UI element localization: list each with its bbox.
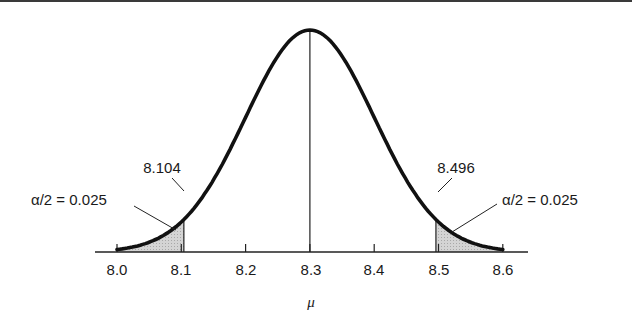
tick-label-8-6: 8.6 (493, 261, 514, 278)
tick-label-8-5: 8.5 (429, 261, 450, 278)
right-tail-leader-line (452, 204, 497, 232)
lower-bound-label: 8.104 (143, 159, 181, 176)
left-tail-leader-line (134, 206, 176, 230)
normal-curve-diagram: 8.0 8.1 8.2 8.3 8.4 8.5 8.6 μ 8.104 8.49… (0, 0, 632, 330)
tick-label-8-2: 8.2 (236, 261, 257, 278)
upper-bound-label: 8.496 (437, 159, 475, 176)
tick-label-8-0: 8.0 (107, 261, 128, 278)
tick-label-8-3: 8.3 (301, 261, 322, 278)
figure-frame: 8.0 8.1 8.2 8.3 8.4 8.5 8.6 μ 8.104 8.49… (0, 0, 632, 330)
right-tail-area-label: α/2 = 0.025 (502, 191, 578, 208)
x-axis-label-mu: μ (306, 294, 315, 310)
upper-bound-leader-line (438, 178, 452, 192)
lower-bound-leader-line (172, 178, 184, 191)
tick-label-8-1: 8.1 (171, 261, 192, 278)
left-tail-area-label: α/2 = 0.025 (31, 191, 107, 208)
tick-label-8-4: 8.4 (364, 261, 385, 278)
x-axis-tick-labels: 8.0 8.1 8.2 8.3 8.4 8.5 8.6 (107, 261, 514, 278)
